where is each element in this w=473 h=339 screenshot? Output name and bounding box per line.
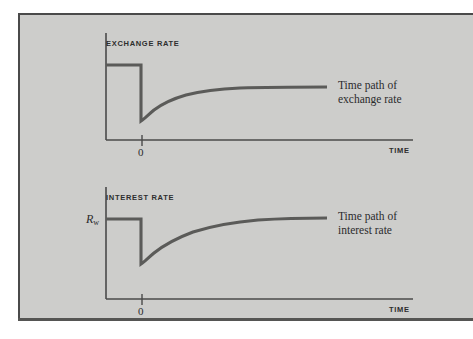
exchange-rate-zero-label: 0	[138, 146, 144, 158]
exchange-rate-x-axis-label: TIME	[389, 146, 410, 155]
exchange-rate-chart: EXCHANGE RATE 0 TIME Time path of exchan…	[20, 15, 473, 169]
exchange-rate-annotation-line1: Time path of	[338, 79, 402, 93]
exchange-rate-annotation-line2: exchange rate	[338, 93, 402, 107]
exchange-rate-plot	[20, 15, 473, 165]
interest-rate-plot	[20, 167, 473, 322]
exchange-rate-curve	[106, 65, 327, 121]
interest-rate-y-axis-label: INTEREST RATE	[106, 193, 174, 202]
interest-rate-chart: INTEREST RATE Rw 0 TIME Time path of int…	[20, 167, 473, 326]
interest-rate-zero-label: 0	[138, 305, 144, 317]
bottom-rule	[18, 318, 473, 321]
illustration-panel: EXCHANGE RATE 0 TIME Time path of exchan…	[18, 13, 473, 320]
exchange-rate-y-axis-label: EXCHANGE RATE	[106, 39, 180, 48]
interest-rate-x-axis-label: TIME	[389, 305, 410, 314]
interest-rate-annotation: Time path of interest rate	[338, 210, 397, 237]
interest-rate-annotation-line1: Time path of	[338, 210, 397, 224]
exchange-rate-annotation: Time path of exchange rate	[338, 79, 402, 106]
interest-rate-curve	[106, 218, 327, 264]
world-interest-rate-label: Rw	[86, 212, 99, 227]
world-interest-rate-subscript: w	[93, 218, 99, 227]
figure-root: EXCHANGE RATE 0 TIME Time path of exchan…	[0, 0, 473, 339]
interest-rate-annotation-line2: interest rate	[338, 224, 397, 238]
